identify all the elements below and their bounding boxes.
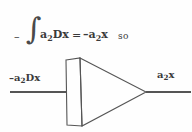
input-block-rect [66,58,82,126]
input-label-base: –a [9,72,20,83]
amplifier-triangle [80,58,146,126]
input-label-rest: Dx [26,72,41,83]
figure-canvas: – ∫ a2Dx = –a2x so –a2Dx a2x [0,0,192,132]
output-signal-label: a2x [157,70,174,82]
output-label-rest: x [169,69,175,80]
amplifier-circuit-drawing [0,0,192,132]
input-signal-label: –a2Dx [9,73,40,85]
